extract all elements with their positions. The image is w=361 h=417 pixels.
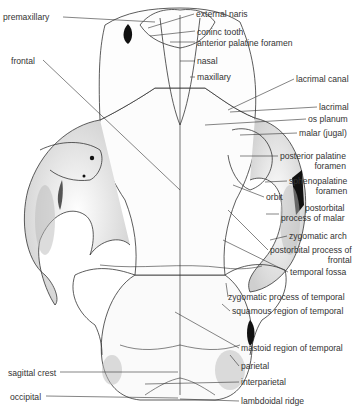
label-os-planum: os planum <box>308 114 348 124</box>
label-lacrimal: lacrimal <box>319 102 349 112</box>
label-postorbital-process-of-malar: postorbital process of malar <box>281 203 345 223</box>
label-malar-jugal: malar (jugal) <box>299 128 347 138</box>
label-coninc-tooth: coninc tooth <box>197 27 243 37</box>
label-orbit: orbit <box>266 192 283 202</box>
label-external-naris: external naris <box>196 9 248 19</box>
label-sagittal-crest: sagittal crest <box>8 368 56 378</box>
label-lambdoidal-ridge: lambdoidal ridge <box>241 396 304 406</box>
label-squamous-region-of-temporal: squamous region of temporal <box>232 306 343 316</box>
label-parietal: parietal <box>241 361 269 371</box>
label-zygomatic-arch: zygomatic arch <box>289 231 347 241</box>
label-postorbital-process-of-frontal: postorbital process of frontal <box>270 245 352 265</box>
label-posterior-palatine-foramen: posterior palatine foramen <box>280 151 346 171</box>
label-sphenopalatine-foramen: sphenopalatine foramen <box>289 176 347 196</box>
label-mastoid-region-of-temporal: mastoid region of temporal <box>241 343 343 353</box>
label-maxillary: maxillary <box>197 72 231 82</box>
label-occipital: occipital <box>10 392 41 402</box>
label-nasal: nasal <box>197 56 218 66</box>
frontal-bone <box>99 88 257 275</box>
label-premaxillary: premaxillary <box>3 12 49 22</box>
label-anterior-palatine-foramen: anterior palatine foramen <box>197 38 293 48</box>
label-frontal: frontal <box>11 56 35 66</box>
label-zygomatic-process-of-temporal: zygomatic process of temporal <box>228 292 345 302</box>
skull-diagram: premaxillary frontal sagittal crest occi… <box>0 0 361 417</box>
label-temporal-fossa: temporal fossa <box>290 267 346 277</box>
label-interparietal: interparietal <box>241 377 286 387</box>
label-lacrimal-canal: lacrimal canal <box>296 74 349 84</box>
